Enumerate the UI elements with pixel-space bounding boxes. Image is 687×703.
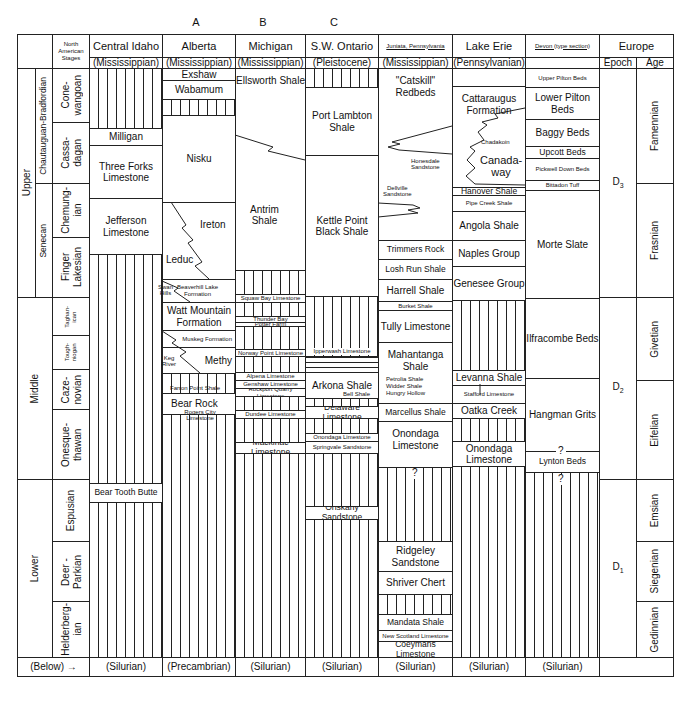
- unit-hatched-interval: [235, 270, 306, 295]
- unit-label: Levanna Shale: [456, 372, 523, 384]
- footer-below: (Below) →: [17, 657, 90, 677]
- unit-label: New Scotland Limestone: [382, 633, 448, 640]
- series-label: Middle: [29, 374, 41, 403]
- unit-label: "Catskill" Redbeds: [379, 75, 452, 98]
- unit-label: Burket Shale: [398, 303, 432, 310]
- unit-hatched-interval: [305, 356, 379, 373]
- unit-hatched-interval: [452, 300, 526, 371]
- series-label: Upper: [21, 169, 33, 196]
- annotation-chadakoin: Chadakoin: [481, 139, 510, 145]
- unit-label: Lower Pilton Beds: [526, 92, 599, 115]
- unit-pickwell-down-beds: Pickwell Down Beds: [525, 158, 600, 181]
- column-name: Devon (type section): [535, 43, 590, 50]
- stage-caze-novian: Caze- novian: [52, 369, 90, 410]
- unit-beaverhill-lake-formation: Beaverhill Lake Formation: [162, 279, 236, 303]
- column-header-alberta: Alberta: [162, 34, 236, 58]
- stage-label: Cassa- dagan: [60, 137, 83, 169]
- unit-hatched-interval: [89, 68, 163, 129]
- europe-age-frasnian: Frasnian: [636, 183, 674, 298]
- stage-label: Onesque- thawan: [60, 423, 83, 467]
- annotation-antrim-shale: Antrim Shale: [250, 205, 279, 226]
- unit-trimmers-rock: Trimmers Rock: [378, 240, 453, 260]
- column-name: Michigan: [248, 40, 292, 53]
- unit-stafford-limestone: Stafford Limestone: [452, 385, 526, 404]
- unit-label: Mandata Shale: [387, 618, 444, 628]
- age-label: Eifelian: [649, 414, 661, 447]
- unit-wabamum: Wabamum: [162, 80, 236, 100]
- annotation-swan-hills: Swan Hills: [158, 284, 173, 297]
- subseries-senecan: Senecan: [35, 183, 53, 298]
- unit-label: Oatka Creek: [461, 405, 517, 417]
- unit-marcellus-shale: Marcellus Shale: [378, 403, 453, 422]
- series-middle: Middle: [17, 297, 53, 480]
- unit-hatched-interval: [305, 519, 379, 658]
- unit-label: Nisku: [186, 153, 211, 165]
- header-blank: [17, 34, 53, 69]
- unit-label: Ilfracombe Beds: [526, 333, 598, 345]
- stage-label: Chemung- ian: [60, 187, 83, 234]
- age-label: Frasnian: [649, 221, 661, 260]
- unit-label: Port Lambton Shale: [306, 110, 378, 133]
- europe-epoch-d1: D1: [599, 479, 637, 658]
- annotation-honesdale-sandstone: Honesdale Sandstone: [411, 158, 440, 171]
- unit-losh-run-shale: Losh Run Shale: [378, 259, 453, 280]
- stage-espusian: Espusian: [52, 479, 90, 542]
- unit-onondaga-limestone: Onondaga Limestone: [452, 441, 526, 467]
- age-label: Emsian: [649, 494, 661, 527]
- unit-hatched-interval: [89, 502, 163, 658]
- column-header-juniata: Juniata, Pennsylvania: [378, 34, 453, 58]
- unit-label: Coeymans Limestone: [379, 641, 452, 658]
- annotation-widder-shale: Widder Shale: [386, 383, 422, 389]
- europe-header: Europe: [599, 34, 674, 58]
- unit-label: Upper Pilton Beds: [538, 75, 586, 82]
- unit-ilfracombe-beds: Ilfracombe Beds: [525, 298, 600, 379]
- unit-label: Muskeg Formation: [182, 336, 232, 343]
- unit-hatched-interval: [305, 418, 379, 434]
- stage-label: Helderberg- ian: [60, 603, 83, 656]
- unit-label: Bittadon Tuff: [546, 182, 580, 189]
- column-header-michigan: Michigan: [235, 34, 306, 58]
- unit-nisku: Nisku: [162, 115, 236, 203]
- unit-label: Oriskany Sandstone: [306, 506, 378, 520]
- unit-port-lambton-shale: Port Lambton Shale: [305, 87, 379, 156]
- footer-sw-ontario: (Silurian): [305, 657, 379, 677]
- annotation-leduc: Leduc: [166, 255, 193, 266]
- unit-upper-pilton-beds: Upper Pilton Beds: [525, 68, 600, 88]
- unit-label: Onondaga Limestone: [453, 443, 525, 466]
- column-name: Alberta: [182, 40, 217, 53]
- unit-label: Jefferson Limestone: [90, 215, 162, 238]
- subseries-label: Senecan: [39, 224, 49, 258]
- unit-hatched-interval: [378, 594, 453, 615]
- europe-label: Europe: [619, 40, 654, 53]
- stage-label: Caze- novian: [60, 375, 83, 404]
- column-name: S.W. Ontario: [311, 40, 373, 53]
- unit-label: Exshaw: [181, 69, 216, 81]
- unit-label: Arkona Shale: [312, 380, 372, 392]
- unit-ellsworth-shale: Ellsworth Shale: [235, 68, 306, 271]
- unit-jefferson-limestone: Jefferson Limestone: [89, 198, 163, 255]
- unit-label: Lynton Beds: [539, 457, 586, 467]
- unit-hatched-interval: [89, 254, 163, 484]
- unit-label: Milligan: [109, 131, 143, 143]
- stage-label: Cone- wangoan: [60, 75, 83, 116]
- unit-hatched-interval: [235, 302, 306, 317]
- unit-label: Squaw Bay Limestone: [241, 295, 301, 302]
- unit-label: Baggy Beds: [536, 127, 590, 139]
- unit-label: Marcellus Shale: [385, 408, 445, 418]
- column-letter-a: A: [186, 16, 206, 28]
- unit--catskill-redbeds: "Catskill" Redbeds: [378, 68, 453, 241]
- stage-tough-niogan: Tough- niogan: [52, 335, 90, 370]
- unit-hatched-interval: [452, 68, 526, 87]
- unit-hatched-interval: [235, 356, 306, 373]
- annotation-hungry-hollow: Hungry Hollow: [386, 390, 425, 396]
- annotation-canada-way: Canada- way: [480, 155, 522, 178]
- unit-label: Morte Slate: [537, 239, 588, 251]
- unit-lower-pilton-beds: Lower Pilton Beds: [525, 87, 600, 120]
- column-name: Lake Erie: [466, 40, 512, 53]
- footer-label: (Silurian): [542, 661, 582, 673]
- annotation-ireton: Ireton: [200, 220, 226, 231]
- footer-alberta: (Precambrian): [162, 657, 236, 677]
- unit-label: Genesee Group: [453, 278, 524, 290]
- europe-epoch-d3: D3: [599, 68, 637, 298]
- column-name: Central Idaho: [93, 40, 159, 53]
